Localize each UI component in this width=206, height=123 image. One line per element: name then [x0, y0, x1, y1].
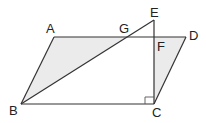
geometry-diagram: A B C D E F G	[0, 0, 206, 123]
label-g: G	[119, 21, 129, 36]
label-a: A	[46, 21, 55, 36]
label-c: C	[152, 105, 161, 120]
label-b: B	[9, 103, 18, 118]
segment-be	[21, 20, 154, 104]
label-d: D	[189, 28, 198, 43]
right-angle-marker	[145, 97, 154, 104]
label-f: F	[157, 39, 165, 54]
label-e: E	[150, 5, 159, 20]
